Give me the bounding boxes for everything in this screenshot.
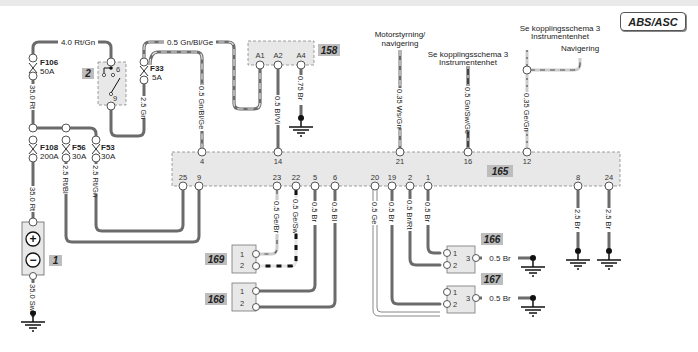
fuse-f53: F53 30A: [92, 136, 116, 162]
wire-label: 0.5 Br/Rt: [405, 200, 414, 231]
wire-label: 0.5 Bl: [330, 202, 339, 222]
fuse-rating: 30A: [101, 152, 116, 161]
connector-167-tag: 167: [484, 274, 501, 285]
fuse-label: F56: [72, 143, 86, 152]
fuse-f108: F108 200A: [29, 124, 59, 162]
pin-label: 2: [453, 300, 457, 309]
pin-label: 1: [240, 250, 244, 259]
wire-label: 0.5 Br: [489, 294, 511, 303]
connector-168-tag: 168: [208, 294, 225, 305]
pin-label: 3: [466, 294, 470, 303]
annotations: Motorstyrning/ navigering Se kopplingssc…: [375, 24, 601, 67]
pin-label: 9: [197, 173, 201, 182]
relay-2-tag: 2: [84, 68, 91, 79]
wire-label: 0.5 Br: [310, 202, 319, 223]
pin-label: 20: [371, 173, 379, 182]
wire-label: 0.5 Bl/Vi: [273, 96, 282, 124]
relay-2: 2 6 9: [82, 62, 126, 105]
wire-label: 0.5 Br: [387, 202, 396, 223]
pin-label: 1: [240, 287, 244, 296]
connector-158-tag: 158: [321, 45, 338, 56]
wire-label: 2.5 Br: [604, 209, 613, 230]
wire-label: 2.5 Gn: [139, 97, 148, 120]
fuse-rating: 50A: [40, 67, 55, 76]
pin-label: 5: [313, 173, 317, 182]
wire-label: 0.35 Ws/Gn: [395, 89, 404, 129]
pin-label: 2: [240, 299, 244, 308]
pin-label: 8: [576, 173, 580, 182]
battery-1: + − 1: [22, 218, 62, 280]
pin-label: 16: [464, 157, 472, 166]
connector-166-tag: 166: [484, 234, 501, 245]
wire-label: 0.35 Ge/Gn: [522, 93, 531, 132]
pin-label: 1: [426, 173, 430, 182]
pin-label: 2: [408, 173, 412, 182]
pin-label: 9: [113, 94, 117, 103]
fuse-label: F106: [40, 58, 59, 67]
pin-label: 2: [240, 261, 244, 270]
wire-label: 2.5 Br: [573, 209, 582, 230]
fuse-label: F33: [150, 64, 164, 73]
connector-165: 165 4 14 21 16 12 25 9 23 22 5 6 20 19 2…: [172, 152, 620, 186]
fuse-label: F108: [40, 143, 59, 152]
wire-label: 4.0 Rt/Gn: [61, 38, 95, 47]
pin-label: 3: [466, 254, 470, 263]
wire-label: 2.5 Rt/Gn: [91, 165, 100, 197]
pin-label: 6: [333, 173, 337, 182]
wire-label: 0.5 Ge/Br: [272, 201, 281, 234]
fuse-label: F53: [101, 143, 115, 152]
fuse-f106: F106 50A: [29, 54, 59, 80]
fuse-f33: F33 5A: [140, 58, 164, 84]
pin-label: A1: [255, 51, 264, 60]
pin-label: A2: [273, 51, 282, 60]
wire-labels-vertical: 35.0 Rt 35.0 Rt 35.0 Sw 2.5 Rt/Bl 2.5 Rt…: [28, 75, 614, 312]
wire-label: 35.0 Rt: [28, 187, 37, 212]
wire-label: 0.5 Gn/Bl/Ge: [167, 38, 214, 47]
pin-label: 1: [453, 288, 457, 297]
wire-label: 2.5 Rt/Bl: [61, 165, 70, 194]
pin-label: 25: [179, 173, 187, 182]
wire-label: 35.0 Rt: [28, 85, 37, 110]
annotation-instrument: Instrumentenhet: [531, 32, 590, 41]
pin-label: A4: [296, 51, 305, 60]
fuse-rating: 5A: [152, 73, 162, 82]
fuse-rating: 200A: [40, 152, 59, 161]
wire-label: 35.0 Sw: [28, 284, 37, 312]
diagram-title: ABS/ASC: [620, 12, 686, 31]
pin-label: 22: [292, 173, 300, 182]
pin-label: 19: [388, 173, 396, 182]
pin-label: 6: [116, 65, 120, 74]
fuse-rating: 30A: [72, 152, 87, 161]
annotation-instrument: Instrumentenhet: [439, 58, 498, 67]
fuse-f56: F56 30A: [62, 124, 87, 162]
pin-label: 14: [274, 157, 282, 166]
pin-label: 2: [453, 261, 457, 270]
battery-tag: 1: [53, 255, 59, 266]
connector-165-tag: 165: [492, 166, 509, 177]
wire-label: 0.5 Br: [489, 254, 511, 263]
pin-label: 4: [200, 157, 204, 166]
wires-dashed: [144, 42, 580, 254]
connector-169: 1 2 169: [205, 245, 260, 273]
pin-label: 23: [273, 173, 281, 182]
pin-label: 24: [605, 173, 613, 182]
wire-label: 0.5 Gn/Sw/Ge: [463, 87, 472, 134]
annotation-navigation: Navigering: [561, 44, 599, 53]
wire-label: 0.5 Br: [423, 202, 432, 223]
wire-label: 0.5 Ge/Sw: [291, 199, 300, 235]
connector-169-tag: 169: [208, 254, 225, 265]
connector-168: 1 2 168: [205, 283, 260, 311]
plus-terminal: +: [29, 232, 36, 246]
pin-label: 1: [453, 249, 457, 258]
minus-terminal: −: [29, 253, 36, 267]
annotation-motor: Motorstyrning/: [375, 30, 426, 39]
pin-label: 12: [523, 157, 531, 166]
annotation-motor: navigering: [382, 39, 419, 48]
pin-label: 21: [396, 157, 404, 166]
wiring-diagram: 165 4 14 21 16 12 25 9 23 22 5 6 20 19 2…: [0, 0, 698, 352]
wire-label: 0.5 Ge: [370, 202, 379, 225]
wire-label: 0.75 Br: [296, 76, 305, 101]
wire-label: 0.5 Gn/Bl/Ge: [197, 86, 206, 129]
